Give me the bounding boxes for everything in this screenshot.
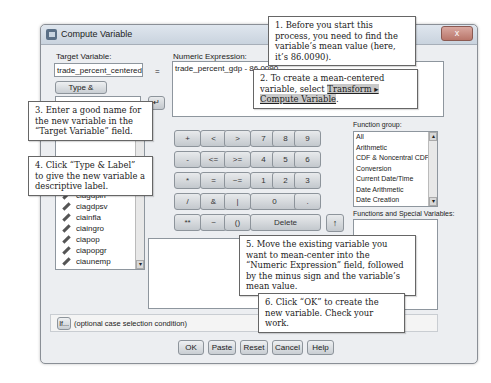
target-variable-input[interactable]: trade_percent_centered — [54, 63, 143, 77]
if-condition-text: (optional case selection condition) — [74, 319, 187, 328]
key-3[interactable]: 3 — [294, 172, 321, 189]
list-item[interactable]: Conversion — [354, 164, 437, 175]
key-decimal[interactable]: . — [294, 193, 321, 210]
callout-step-5: 5. Move the existing variable you want t… — [239, 235, 416, 296]
list-item[interactable]: ciaunemp — [56, 256, 144, 267]
function-group-label: Function group: — [353, 121, 402, 128]
list-item[interactable]: CDF & Noncentral CDF — [354, 153, 437, 164]
equals-sign: = — [155, 67, 160, 76]
callout-step-1: 1. Before you start this process, you ne… — [268, 16, 416, 66]
move-function-up-button[interactable]: ↑ — [326, 214, 344, 232]
type-label-button[interactable]: Type & Label... — [55, 81, 107, 94]
ok-button[interactable]: OK — [178, 340, 204, 355]
close-button[interactable]: x — [441, 26, 473, 41]
scale-variable-icon — [62, 203, 70, 211]
callout-step-2: 2. To create a mean-centered variable, s… — [253, 69, 418, 109]
scale-variable-icon — [62, 214, 70, 222]
scale-variable-icon — [62, 236, 70, 244]
help-button[interactable]: Help — [307, 340, 334, 355]
key-0[interactable]: 0 — [250, 193, 299, 210]
key-6[interactable]: 6 — [294, 151, 321, 168]
key-greater-equal[interactable]: >= — [224, 151, 251, 168]
reset-button[interactable]: Reset — [240, 340, 268, 355]
callout-step-6: 6. Click “OK” to create the new variable… — [258, 293, 405, 333]
list-item[interactable]: ciagdpsv — [56, 201, 144, 212]
key-not-equal[interactable]: ~= — [224, 172, 251, 189]
if-button[interactable]: If... — [57, 317, 71, 330]
key-parentheses[interactable]: () — [224, 214, 251, 231]
list-item[interactable]: Arithmetic — [354, 143, 437, 154]
list-item[interactable]: Date Creation — [354, 195, 437, 206]
key-greater-than[interactable]: > — [224, 130, 251, 147]
list-item[interactable]: Date Arithmetic — [354, 185, 437, 196]
key-multiply[interactable]: * — [174, 172, 201, 189]
scale-variable-icon — [62, 258, 70, 266]
key-less-equal[interactable]: <= — [200, 151, 227, 168]
scroll-down-icon[interactable]: ▾ — [429, 197, 437, 206]
target-variable-label: Target Variable: — [56, 52, 111, 61]
function-group-scrollbar[interactable]: ▴ ▾ — [428, 132, 437, 206]
arrow-left-icon: ↵ — [153, 98, 160, 107]
paste-button[interactable]: Paste — [208, 340, 236, 355]
callout-step-3: 3. Enter a good name for the new variabl… — [28, 101, 153, 141]
spss-dialog-icon — [46, 29, 57, 40]
key-divide[interactable]: / — [174, 193, 201, 210]
key-not[interactable]: ~ — [200, 214, 227, 231]
key-equals[interactable]: = — [200, 172, 227, 189]
key-9[interactable]: 9 — [294, 130, 321, 147]
key-less-than[interactable]: < — [200, 130, 227, 147]
list-item[interactable]: ciainfla — [56, 212, 144, 223]
function-group-list[interactable]: All Arithmetic CDF & Noncentral CDF Conv… — [353, 131, 438, 207]
list-item[interactable]: ciapop — [56, 234, 144, 245]
list-item[interactable]: ciaingro — [56, 223, 144, 234]
list-item[interactable]: All — [354, 132, 437, 143]
key-plus[interactable]: + — [174, 130, 201, 147]
list-item[interactable]: Current Date/Time — [354, 174, 437, 185]
numeric-expression-label: Numeric Expression: — [173, 52, 247, 61]
cancel-button[interactable]: Cancel — [272, 340, 303, 355]
scroll-down-icon[interactable]: ▾ — [136, 260, 144, 269]
key-minus[interactable]: - — [174, 151, 201, 168]
list-item[interactable]: ciapopgr — [56, 245, 144, 256]
arrow-up-icon: ↑ — [333, 218, 338, 228]
key-power[interactable]: ** — [174, 214, 201, 231]
scroll-up-icon[interactable]: ▴ — [429, 132, 437, 141]
list-item[interactable]: civil_war — [56, 267, 144, 270]
key-delete[interactable]: Delete — [250, 214, 321, 231]
scale-variable-icon — [62, 225, 70, 233]
nominal-variable-icon — [62, 269, 70, 270]
key-and[interactable]: & — [200, 193, 227, 210]
key-or[interactable]: | — [224, 193, 251, 210]
scale-variable-icon — [62, 247, 70, 255]
functions-special-label: Functions and Special Variables: — [353, 210, 454, 217]
callout-step-4: 4. Click “Type & Label” to give the new … — [28, 156, 153, 196]
dialog-title: Compute Variable — [61, 29, 132, 39]
